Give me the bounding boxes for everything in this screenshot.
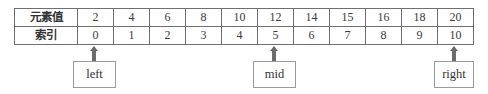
array-table: 元素值 2 4 6 8 10 12 14 15 16 18 20 索引 0 1 …: [14, 8, 474, 45]
index-cell: 9: [402, 27, 438, 45]
index-cell: 1: [114, 27, 150, 45]
index-cell: 4: [222, 27, 258, 45]
index-cell: 6: [294, 27, 330, 45]
value-cell: 14: [294, 9, 330, 27]
index-row: 索引 0 1 2 3 4 5 6 7 8 9 10: [15, 27, 474, 45]
right-pointer-label: right: [434, 61, 474, 88]
index-cell: 3: [186, 27, 222, 45]
value-cell: 15: [330, 9, 366, 27]
value-cell: 16: [366, 9, 402, 27]
index-cell: 2: [150, 27, 186, 45]
value-cell: 4: [114, 9, 150, 27]
index-cell: 0: [78, 27, 114, 45]
row-header-index: 索引: [15, 27, 78, 45]
value-cell: 6: [150, 9, 186, 27]
row-header-values: 元素值: [15, 9, 78, 27]
value-cell: 8: [186, 9, 222, 27]
value-cell: 12: [258, 9, 294, 27]
values-row: 元素值 2 4 6 8 10 12 14 15 16 18 20: [15, 9, 474, 27]
value-cell: 18: [402, 9, 438, 27]
left-pointer-label: left: [73, 61, 116, 88]
value-cell: 2: [78, 9, 114, 27]
value-cell: 10: [222, 9, 258, 27]
index-cell: 10: [438, 27, 474, 45]
index-cell: 5: [258, 27, 294, 45]
index-cell: 7: [330, 27, 366, 45]
value-cell: 20: [438, 9, 474, 27]
index-cell: 8: [366, 27, 402, 45]
mid-pointer-label: mid: [253, 61, 296, 88]
